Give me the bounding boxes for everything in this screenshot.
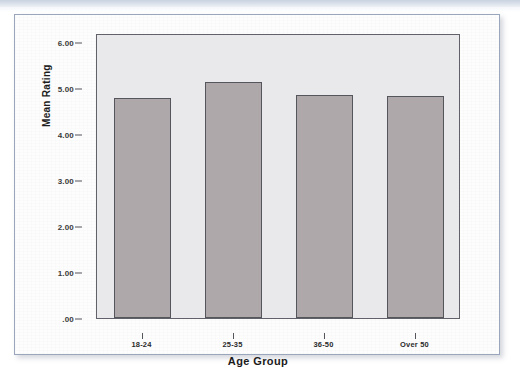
y-tick-label: .00 (62, 315, 74, 324)
y-tick-mark (75, 89, 82, 90)
axis-layer: .001.002.003.004.005.006.00 Mean Rating … (15, 15, 501, 356)
y-tick-mark (75, 135, 82, 136)
x-tick-label: Over 50 (400, 340, 429, 349)
y-tick-mark (75, 319, 82, 320)
y-tick-label: 6.00 (58, 39, 74, 48)
x-tick-label: 25-35 (222, 340, 242, 349)
y-tick-label: 3.00 (58, 177, 74, 186)
x-axis-title: Age Group (15, 355, 501, 367)
y-tick-label: 1.00 (58, 269, 74, 278)
x-tick-mark (324, 333, 325, 339)
y-tick-mark (75, 181, 82, 182)
x-tick-label: 18-24 (131, 340, 151, 349)
x-tick-mark (233, 333, 234, 339)
page-header-band (0, 0, 520, 7)
y-tick-mark (75, 273, 82, 274)
x-tick-mark (415, 333, 416, 339)
y-axis-title: Mean Rating (41, 64, 52, 127)
y-tick-label: 4.00 (58, 131, 74, 140)
y-tick-label: 2.00 (58, 223, 74, 232)
y-axis: .001.002.003.004.005.006.00 (15, 15, 96, 333)
y-tick-mark (75, 227, 82, 228)
x-tick-mark (142, 333, 143, 339)
chart-screenshot: .001.002.003.004.005.006.00 Mean Rating … (0, 0, 520, 368)
x-tick-label: 36-50 (313, 340, 333, 349)
chart-card: .001.002.003.004.005.006.00 Mean Rating … (14, 14, 500, 355)
y-tick-label: 5.00 (58, 85, 74, 94)
y-tick-mark (75, 43, 82, 44)
page-header-band-shadow (0, 7, 520, 12)
